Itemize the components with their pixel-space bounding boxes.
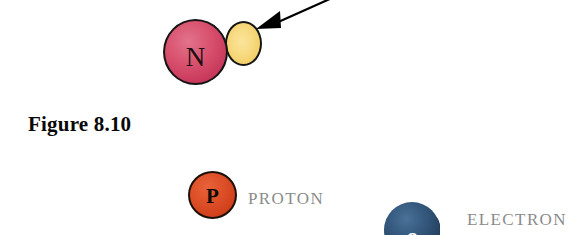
arrow-shaft xyxy=(276,0,332,23)
pointer-arrow-icon xyxy=(250,0,340,38)
legend-electron-glyph: e xyxy=(384,202,440,235)
nitrogen-atom-label: N xyxy=(165,21,226,83)
legend-electron-label: ELECTRON xyxy=(467,210,567,230)
figure-caption: Figure 8.10 xyxy=(28,112,131,137)
legend-proton-glyph: P xyxy=(190,173,235,217)
legend-electron-sphere: e xyxy=(384,202,440,235)
legend-proton-label: PROTON xyxy=(248,189,324,209)
figure-canvas: N Figure 8.10 P PROTON e ELECTRON xyxy=(0,0,577,235)
legend-proton-sphere: P xyxy=(188,171,237,219)
arrow-head xyxy=(256,11,281,29)
nitrogen-atom-sphere: N xyxy=(163,19,228,85)
